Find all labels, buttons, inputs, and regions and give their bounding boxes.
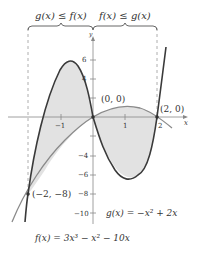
y-tick-label-4: 4 xyxy=(82,75,87,83)
y-tick-label-neg8: −8 xyxy=(78,190,88,198)
y-axis-label: y xyxy=(88,30,93,38)
equation-g: g(x) = −x² + 2x xyxy=(106,208,177,218)
y-tick-label-neg4: −4 xyxy=(78,152,89,160)
point-2-0 xyxy=(155,115,159,119)
y-tick-label-6: 6 xyxy=(82,56,87,64)
equation-f: f(x) = 3x³ − x² − 10x xyxy=(34,233,130,243)
brace-left xyxy=(28,23,93,30)
x-axis-label: x xyxy=(184,119,188,127)
point-neg2-neg8 xyxy=(26,192,30,196)
graph-canvas: g(x) ≤ f(x) f(x) ≤ g(x) y x −1 1 2 6 4 −… xyxy=(0,0,197,253)
brace-right xyxy=(93,23,157,30)
point-label-2-0: (2, 0) xyxy=(160,104,184,114)
point-label-origin: (0, 0) xyxy=(101,94,125,104)
label-f-le-g: f(x) ≤ g(x) xyxy=(98,10,151,21)
point-label-neg2-neg8: (−2, −8) xyxy=(32,189,71,199)
y-tick-label-neg6: −6 xyxy=(78,171,89,179)
y-tick-label-neg10: −10 xyxy=(74,210,89,218)
x-tick-label-2: 2 xyxy=(158,122,162,130)
point-origin xyxy=(91,115,95,119)
x-tick-label-1: 1 xyxy=(123,122,127,130)
x-tick-label-neg1: −1 xyxy=(55,122,65,130)
label-g-le-f: g(x) ≤ f(x) xyxy=(35,10,87,21)
